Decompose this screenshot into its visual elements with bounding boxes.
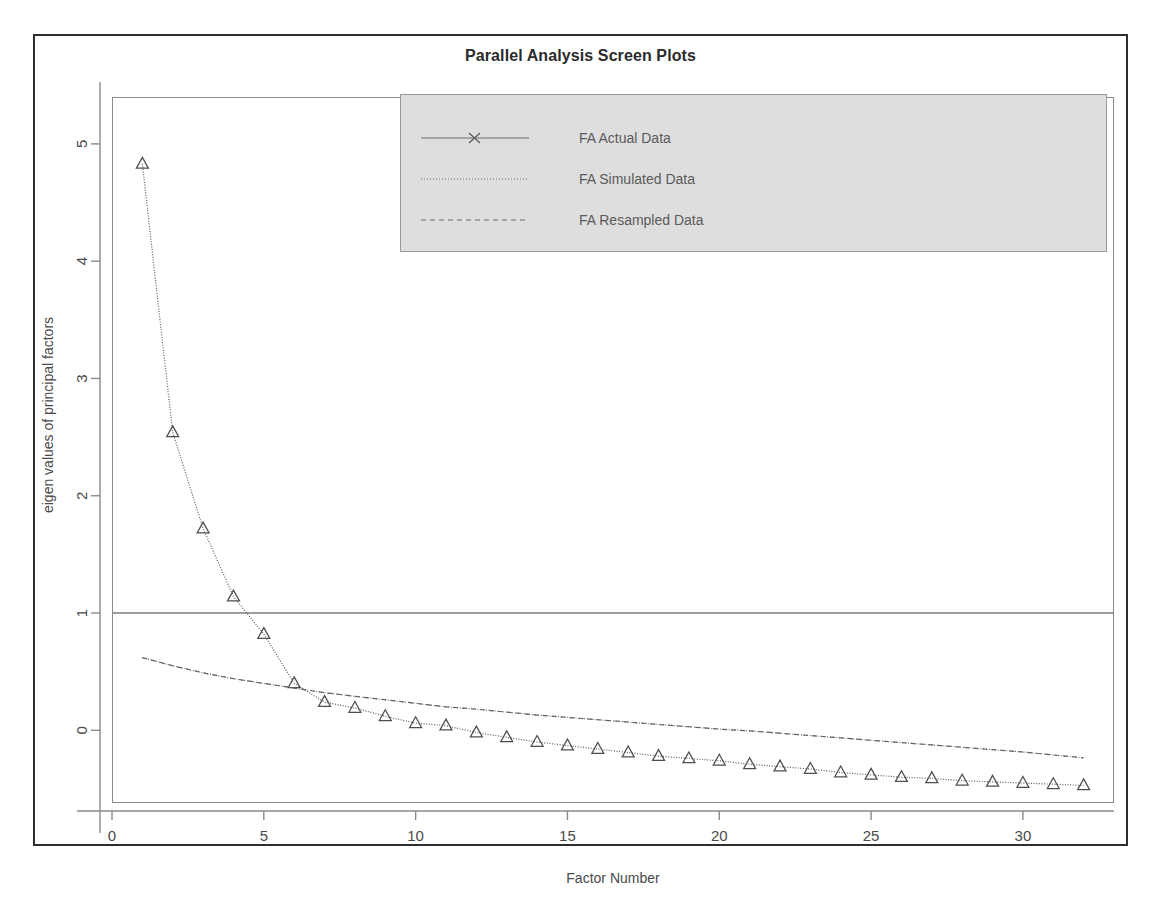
legend-item[interactable]: FA Simulated Data: [419, 158, 1106, 199]
x-axis-tick-label: 0: [108, 827, 116, 844]
y-axis-tick-label: 0: [74, 726, 91, 734]
legend-item-label: FA Actual Data: [579, 130, 671, 146]
legend-item[interactable]: FA Actual Data: [419, 117, 1106, 158]
x-axis-tick-label: 30: [1015, 827, 1032, 844]
x-axis-title: Factor Number: [566, 870, 660, 886]
legend-key-dashed-line: [419, 210, 531, 230]
x-axis-tick-label: 25: [863, 827, 880, 844]
y-axis-tick-label: 5: [74, 140, 91, 148]
legend-key-dotted-line: [419, 169, 531, 189]
y-axis-tick-label: 1: [74, 609, 91, 617]
x-axis-tick-label: 15: [559, 827, 576, 844]
figure-page: Parallel Analysis Screen Plots 051015202…: [0, 0, 1164, 900]
y-axis-tick-label: 2: [74, 492, 91, 500]
legend-entries: FA Actual DataFA Simulated DataFA Resamp…: [401, 95, 1106, 251]
legend-item[interactable]: FA Resampled Data: [419, 199, 1106, 240]
y-axis-tick-label: 3: [74, 374, 91, 382]
x-axis-tick-label: 20: [711, 827, 728, 844]
legend-box: FA Actual DataFA Simulated DataFA Resamp…: [400, 94, 1107, 252]
legend-item-label: FA Resampled Data: [579, 212, 704, 228]
legend-item-label: FA Simulated Data: [579, 171, 695, 187]
y-axis-tick-label: 4: [74, 257, 91, 265]
y-axis-title: eigen values of principal factors: [40, 317, 56, 513]
figure-frame: Parallel Analysis Screen Plots 051015202…: [33, 34, 1128, 846]
x-axis-tick-label: 5: [260, 827, 268, 844]
x-axis-tick-label: 10: [407, 827, 424, 844]
legend-key-solid-with-x-marker: [419, 128, 531, 148]
